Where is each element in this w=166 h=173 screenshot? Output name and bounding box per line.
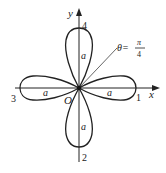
petal-4-length: a [81,50,86,61]
theta-label: θ= [117,42,129,53]
petal-2-number: 2 [82,152,87,163]
petal-3-number: 3 [11,93,16,104]
four-leaf-rose-diagram: y x O 4 2 3 1 a a a a θ= π 4 [0,0,166,173]
theta-numerator: π [137,38,142,47]
origin-point [77,86,81,90]
theta-denominator: 4 [137,50,141,59]
petal-3-length: a [43,87,48,98]
origin-label: O [64,94,72,106]
petal-1-length: a [107,87,112,98]
y-axis-arrow-icon [76,8,82,16]
petal-4-number: 4 [82,20,87,31]
petal-2-length: a [81,121,86,132]
y-axis-label: y [67,7,73,19]
petal-1-number: 1 [136,92,141,103]
x-axis-label: x [148,88,154,100]
